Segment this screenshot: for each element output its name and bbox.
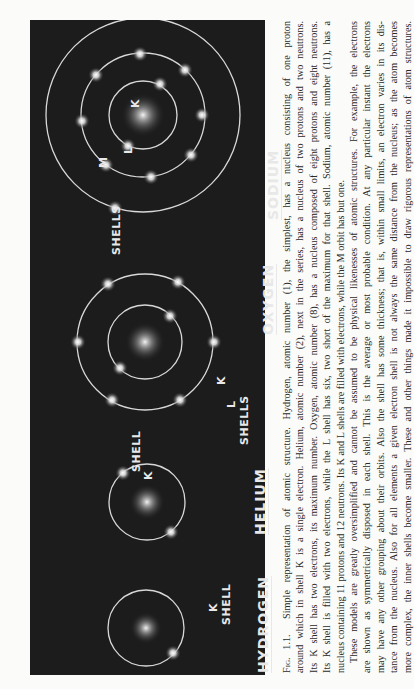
helium-k-shell-label: K bbox=[142, 471, 155, 480]
sodium-k-shell-label: K bbox=[129, 99, 142, 108]
caption-line: nucleus containing 11 protons and 12 neu… bbox=[334, 21, 347, 673]
hydrogen-label: HYDROGEN bbox=[255, 576, 271, 673]
oxygen-l-shell-label: L bbox=[225, 400, 238, 408]
hydrogen-k-shell-label: K bbox=[207, 603, 220, 612]
paragraph-line: are shown as symmetrically disposed in e… bbox=[360, 21, 373, 673]
sodium-label: SODIUM bbox=[265, 150, 281, 220]
paragraph-line: tance from the nucleus. Also for all ele… bbox=[387, 21, 400, 673]
sodium-m-shell-label: M bbox=[97, 157, 110, 168]
atomic-structure-figure: SODIUM K L M SHELLS OXYGEN K L SHELLS HE… bbox=[30, 20, 265, 675]
caption-line: Fig. 1.1. Simple representation of atomi… bbox=[280, 21, 293, 673]
helium-label: HELIUM bbox=[252, 468, 268, 535]
atom-diagram bbox=[30, 20, 265, 675]
caption-line: Its K shell is filled with two electrons… bbox=[320, 21, 333, 673]
caption-line: Its K shell has two electrons, its maxim… bbox=[307, 21, 320, 673]
paragraph-line: may have any other grouping about their … bbox=[374, 21, 387, 673]
figure-number: Fig. 1.1. bbox=[281, 634, 292, 673]
sodium-shells-label: SHELLS bbox=[110, 205, 123, 255]
paragraph-line: These models are greatly oversimplified … bbox=[347, 21, 360, 673]
oxygen-shells-label: SHELLS bbox=[238, 395, 251, 445]
figure-caption: Fig. 1.1. Simple representation of atomi… bbox=[280, 21, 406, 673]
sodium-l-shell-label: L bbox=[122, 146, 135, 154]
oxygen-label: OXYGEN bbox=[260, 264, 276, 335]
paragraph-line: more complex, the inner shells become sm… bbox=[401, 21, 414, 673]
caption-line: around which in shell K is a single elec… bbox=[293, 21, 306, 673]
hydrogen-shell-label: SHELL bbox=[220, 584, 233, 625]
oxygen-k-shell-label: K bbox=[215, 376, 228, 385]
helium-shell-label: SHELL bbox=[130, 431, 143, 472]
